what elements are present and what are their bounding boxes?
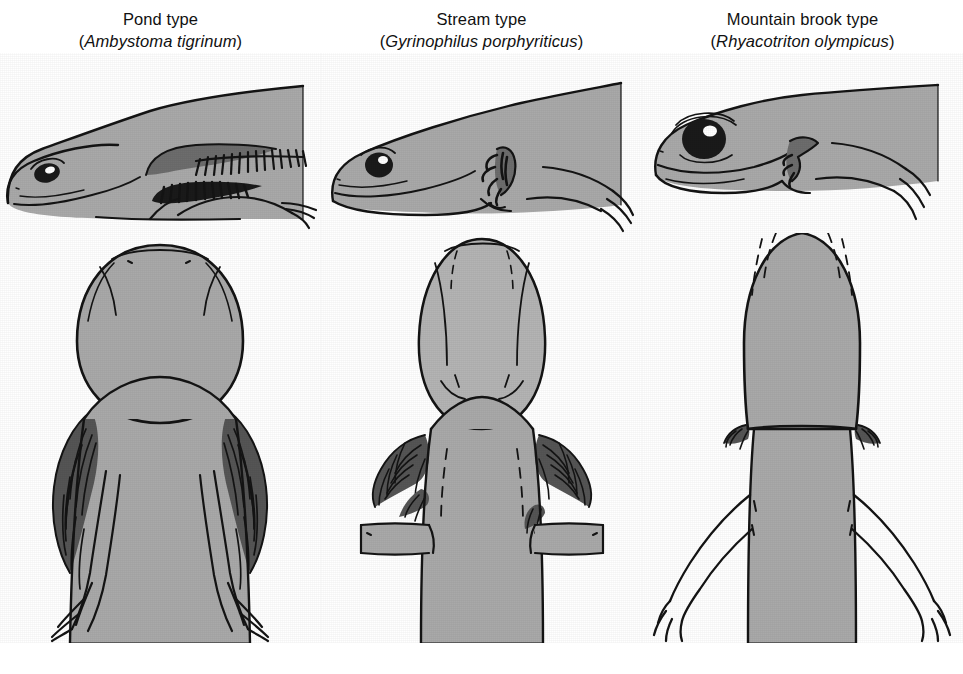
panel-pond-dorsal	[0, 233, 321, 643]
pond-lateral-illustration	[7, 86, 316, 228]
scientific-name-mountain-brook-text: Rhyacotriton olympicus	[716, 32, 889, 50]
mountain-brook-lateral-illustration	[655, 85, 938, 219]
caption-mountain-brook-type: Mountain brook type (Rhyacotriton olympi…	[642, 0, 963, 53]
panel-mountain-brook-dorsal	[642, 233, 963, 643]
caption-stream-type: Stream type (Gyrinophilus porphyriticus)	[321, 0, 642, 53]
scientific-name-stream-text: Gyrinophilus porphyriticus	[385, 32, 577, 50]
mountain-brook-dorsal-illustration	[654, 233, 950, 643]
column-mountain-brook-type: Mountain brook type (Rhyacotriton olympi…	[642, 0, 963, 674]
close-paren-stream: )	[578, 32, 584, 50]
salamander-larval-types-figure: Pond type (Ambystoma tigrinum)	[0, 0, 963, 674]
pond-dorsal-illustration	[52, 245, 268, 643]
column-stream-type: Stream type (Gyrinophilus porphyriticus)	[321, 0, 642, 674]
panel-pond-lateral	[0, 53, 321, 233]
common-name-pond: Pond type	[0, 9, 321, 31]
scientific-name-pond: (Ambystoma tigrinum)	[0, 31, 321, 53]
caption-pond-type: Pond type (Ambystoma tigrinum)	[0, 0, 321, 53]
panel-stream-dorsal	[321, 233, 642, 643]
column-pond-type: Pond type (Ambystoma tigrinum)	[0, 0, 321, 674]
stream-dorsal-illustration	[361, 239, 603, 643]
panel-mountain-brook-lateral	[642, 53, 963, 233]
common-name-mountain-brook: Mountain brook type	[642, 9, 963, 31]
stream-lateral-illustration	[332, 83, 633, 231]
common-name-stream: Stream type	[321, 9, 642, 31]
scientific-name-pond-text: Ambystoma tigrinum	[84, 32, 236, 50]
close-paren-pond: )	[237, 32, 243, 50]
panel-stream-lateral	[321, 53, 642, 233]
scientific-name-stream: (Gyrinophilus porphyriticus)	[321, 31, 642, 53]
scientific-name-mountain-brook: (Rhyacotriton olympicus)	[642, 31, 963, 53]
figure-columns: Pond type (Ambystoma tigrinum)	[0, 0, 963, 674]
close-paren-mountain-brook: )	[889, 32, 895, 50]
